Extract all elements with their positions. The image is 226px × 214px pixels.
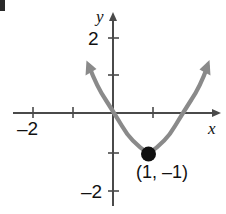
coordinate-plane-svg (0, 0, 226, 214)
vertex-coordinate-label: (1, –1) (136, 163, 188, 181)
vertex-point-marker (141, 147, 156, 162)
x-axis-label: x (208, 120, 216, 137)
y-axis-label: y (96, 8, 104, 25)
x-tick-label-neg2: –2 (17, 119, 38, 138)
parabola-graph-figure: y x 2 –2 –2 (1, –1) (0, 0, 226, 214)
y-axis-arrowhead (109, 12, 117, 21)
y-tick-label-neg2: –2 (81, 182, 102, 201)
x-axis-arrowhead (212, 109, 221, 117)
y-tick-label-2: 2 (88, 29, 99, 48)
parabola-curve (89, 66, 208, 154)
